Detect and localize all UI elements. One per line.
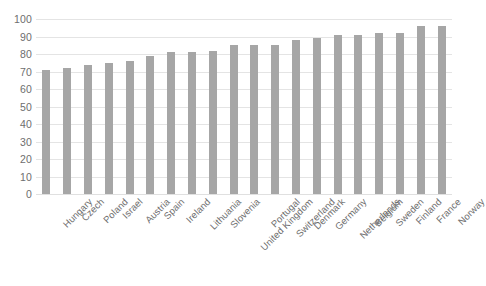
bar: [334, 35, 342, 194]
x-axis-tick-label: Ireland: [184, 196, 213, 225]
y-axis-tick-label: 0: [26, 188, 32, 200]
y-axis-tick-label: 40: [20, 118, 32, 130]
bar: [292, 40, 300, 194]
bar: [188, 52, 196, 194]
y-axis-tick-label: 100: [14, 13, 32, 25]
y-axis: 0102030405060708090100: [0, 19, 32, 194]
bar: [230, 45, 238, 194]
bar-series: [36, 19, 452, 194]
bar: [375, 33, 383, 194]
bar: [167, 52, 175, 194]
bar: [63, 68, 71, 194]
gridline-0: [36, 194, 452, 195]
bar: [146, 56, 154, 194]
bar: [396, 33, 404, 194]
bar: [313, 38, 321, 194]
bar: [84, 65, 92, 195]
y-axis-tick-label: 50: [20, 101, 32, 113]
bar: [105, 63, 113, 194]
bar: [417, 26, 425, 194]
y-axis-tick-label: 60: [20, 83, 32, 95]
y-axis-tick-label: 80: [20, 48, 32, 60]
bar: [250, 45, 258, 194]
y-axis-tick-label: 10: [20, 171, 32, 183]
bar: [438, 26, 446, 194]
y-axis-tick-label: 20: [20, 153, 32, 165]
y-axis-tick-label: 90: [20, 31, 32, 43]
y-axis-tick-label: 70: [20, 66, 32, 78]
bar: [354, 35, 362, 194]
bar: [42, 70, 50, 194]
y-axis-tick-label: 30: [20, 136, 32, 148]
bar: [126, 61, 134, 194]
bar: [271, 45, 279, 194]
x-axis: HungaryCzechPolandIsraelAustriaSpainIrel…: [36, 196, 452, 286]
bar: [209, 51, 217, 195]
